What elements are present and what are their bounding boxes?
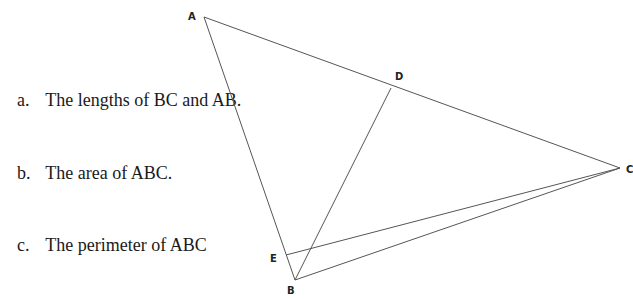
segment-ac bbox=[204, 17, 620, 168]
point-label-b: B bbox=[287, 285, 295, 296]
point-label-e: E bbox=[270, 253, 277, 264]
point-label-c: C bbox=[626, 164, 633, 175]
point-label-a: A bbox=[188, 11, 196, 22]
triangle-diagram: A D C E B bbox=[0, 0, 633, 299]
segment-ab bbox=[204, 17, 295, 280]
segment-bd bbox=[295, 88, 391, 280]
point-label-d: D bbox=[395, 71, 403, 82]
segment-ec bbox=[286, 168, 620, 255]
segment-bc bbox=[295, 168, 620, 280]
